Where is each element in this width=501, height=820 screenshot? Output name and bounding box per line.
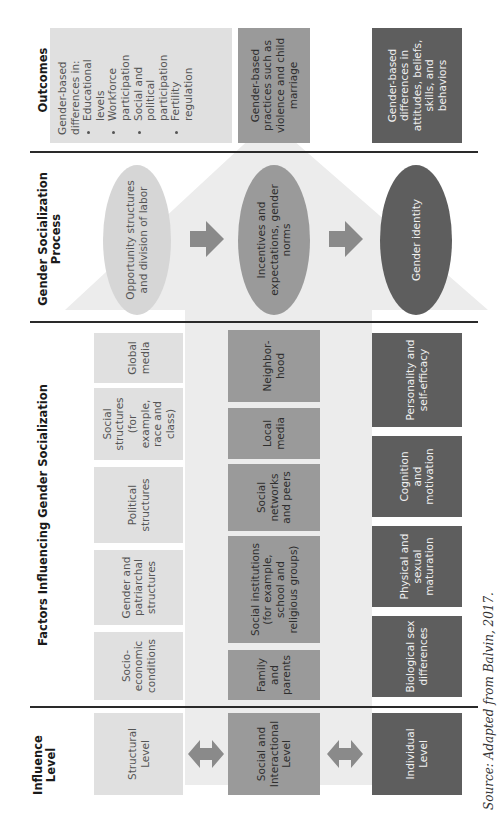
outcome-bullet: Social and political participation: [132, 36, 170, 121]
outcome-individual-differences: Gender-based differences in attitudes, b…: [372, 28, 462, 143]
factor-cognition-motivation: Cognition and motivation: [372, 436, 462, 517]
factor-neighborhood: Neighbor-hood: [228, 330, 320, 402]
factor-gender-patriarchal: Gender and patriarchal structures: [94, 550, 183, 625]
factor-biological-sex: Biological sex differences: [372, 616, 462, 697]
process-incentives-norms: Incentives and expectations, gender norm…: [238, 165, 310, 315]
gender-socialization-diagram: Influence Level Factors Influencing Gend…: [0, 0, 501, 820]
divider-influence-factors: [30, 707, 478, 709]
outcome-bullet: Educational levels: [81, 36, 106, 121]
factor-personality-self-efficacy: Personality and self-efficacy: [372, 333, 462, 427]
arrow-down-icon: [190, 221, 224, 257]
factor-physical-sexual-maturation: Physical and sexual maturation: [372, 526, 462, 607]
header-influence-level: Influence Level: [32, 725, 58, 805]
factor-global-media: Global media: [94, 333, 183, 383]
factor-socio-economic: Socio-economic conditions: [94, 632, 183, 700]
influence-structural-level: Structural Level: [94, 713, 183, 795]
header-factors: Factors Influencing Gender Socialization: [37, 325, 50, 705]
header-outcomes: Outcomes: [37, 20, 50, 140]
source-note: Source: Adapted from Balvin, 2017.: [482, 560, 496, 810]
divider-process-outcomes: [30, 152, 478, 154]
influence-individual-level: Individual Level: [372, 713, 462, 795]
double-arrow-icon: [188, 734, 224, 774]
outcome-structural-list: Gender-based differences in: Educational…: [50, 28, 232, 143]
factor-social-institutions: Social institutions (for example, school…: [228, 536, 320, 643]
influence-social-interactional-level: Social and Interactional Level: [228, 713, 320, 795]
factor-family-parents: Family and parents: [228, 650, 320, 700]
outcome-intro: Gender-based differences in:: [56, 36, 81, 135]
factor-social-networks: Social networks and peers: [228, 464, 320, 531]
arrow-down-icon: [329, 221, 363, 257]
double-arrow-icon: [327, 734, 363, 774]
factor-political: Political structures: [94, 467, 183, 543]
process-gender-identity: Gender identity: [380, 165, 452, 315]
factor-social-structures: Social structures (for example, race and…: [94, 388, 183, 460]
process-opportunity-structures: Opportunity structures and division of l…: [103, 165, 171, 315]
divider-factors-process: [30, 322, 478, 324]
outcome-social-practices: Gender-based practices such as violence …: [238, 28, 310, 143]
outcome-bullet: Workforce participation: [106, 36, 131, 121]
factor-local-media: Local media: [228, 408, 320, 459]
header-process: Gender Socialization Process: [37, 153, 63, 325]
outcome-bullet: Fertility regulation: [169, 36, 194, 121]
